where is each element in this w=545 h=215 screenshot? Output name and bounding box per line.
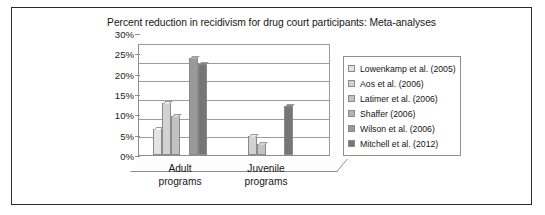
bar-cluster (153, 44, 207, 155)
plot-area: 0%5%10%15%20%25%30%AdultprogramsJuvenile… (130, 44, 330, 162)
legend-item[interactable]: Mitchell et al. (2012) (348, 136, 455, 151)
y-axis-tick-mark (135, 34, 140, 35)
y-axis-tick-label: 0% (120, 151, 134, 162)
y-axis-tick-label: 25% (115, 49, 134, 60)
legend-label: Shaffer (2006) (360, 109, 415, 119)
legend-item[interactable]: Aos et al. (2006) (348, 76, 455, 91)
legend-item[interactable]: Wilson et al. (2006) (348, 121, 455, 136)
bar (162, 103, 171, 155)
y-axis-tick-mark (135, 75, 140, 76)
y-axis-tick-label: 20% (115, 69, 134, 80)
legend-swatch-icon (348, 110, 355, 117)
bar (171, 116, 180, 155)
bar (257, 144, 266, 155)
chart-legend: Lowenkamp et al. (2005)Aos et al. (2006)… (343, 56, 461, 156)
y-axis-tick-label: 30% (115, 29, 134, 40)
legend-label: Mitchell et al. (2012) (360, 139, 438, 149)
y-axis-tick-mark (135, 136, 140, 137)
bar (284, 106, 293, 155)
y-axis-tick-label: 15% (115, 90, 134, 101)
legend-label: Lowenkamp et al. (2005) (360, 64, 456, 74)
legend-swatch-icon (348, 65, 355, 72)
y-axis-tick-label: 10% (115, 110, 134, 121)
x-axis-label-line: Adult (139, 162, 221, 175)
bar (153, 129, 162, 155)
legend-item[interactable]: Latimer et al. (2006) (348, 91, 455, 106)
legend-item[interactable]: Shaffer (2006) (348, 106, 455, 121)
x-axis-label-line: Juvenile (225, 162, 307, 175)
legend-label: Latimer et al. (2006) (360, 94, 438, 104)
plot-canvas: 0%5%10%15%20%25%30%AdultprogramsJuvenile… (138, 44, 330, 156)
bar (189, 58, 198, 155)
legend-swatch-icon (348, 95, 355, 102)
legend-swatch-icon (348, 140, 355, 147)
y-axis-tick-mark (135, 95, 140, 96)
legend-label: Aos et al. (2006) (360, 79, 424, 89)
chart-figure: Percent reduction in recidivism for drug… (11, 7, 532, 205)
y-axis-tick-label: 5% (120, 130, 134, 141)
x-axis-label-line: programs (139, 175, 221, 188)
legend-label: Wilson et al. (2006) (360, 124, 435, 134)
legend-swatch-icon (348, 80, 355, 87)
chart-title: Percent reduction in recidivism for drug… (12, 17, 531, 28)
x-axis-category-label: Adultprograms (139, 162, 221, 188)
bar (198, 64, 207, 155)
bar (248, 136, 257, 155)
y-axis-tick-mark (135, 156, 140, 157)
x-axis-label-line: programs (225, 175, 307, 188)
y-axis-tick-mark (135, 54, 140, 55)
bar-cluster (239, 44, 293, 155)
y-axis-tick-mark (135, 115, 140, 116)
legend-swatch-icon (348, 125, 355, 132)
x-axis-category-label: Juvenileprograms (225, 162, 307, 188)
legend-item[interactable]: Lowenkamp et al. (2005) (348, 61, 455, 76)
